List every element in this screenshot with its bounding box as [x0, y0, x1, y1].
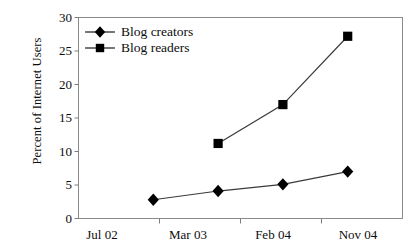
line-chart: Percent of Internet Users 30 25 20 15 10…: [0, 0, 416, 252]
series-lines: [153, 36, 347, 199]
y-axis-ticks: [75, 18, 79, 219]
plot-area: [0, 0, 416, 252]
series-markers: [148, 32, 354, 206]
x-axis-ticks: [160, 219, 322, 224]
